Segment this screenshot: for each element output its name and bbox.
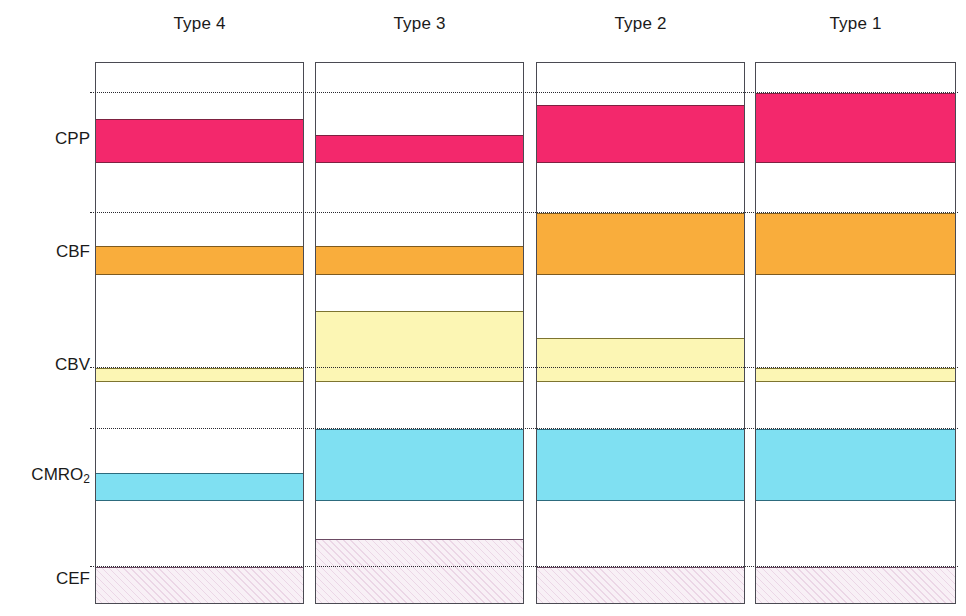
panel-inner-type1 <box>756 63 955 603</box>
column-header-type4: Type 4 <box>95 12 304 36</box>
bar-cbf-type3 <box>316 246 523 275</box>
bar-cmro2-type3 <box>316 429 523 501</box>
panel-inner-type3 <box>316 63 523 603</box>
bar-cpp-type3 <box>316 135 523 163</box>
panel-type3 <box>315 62 524 604</box>
bar-cbv-type1 <box>756 368 955 382</box>
bar-cpp-type1 <box>756 93 955 163</box>
row-label-cbv: CBV <box>6 356 90 373</box>
row-label-cbf: CBF <box>6 243 90 260</box>
bar-cpp-type2 <box>537 105 744 163</box>
bar-cef-type2 <box>537 567 744 603</box>
row-label-column: CPP CBF CBV CMRO2 CEF <box>0 0 90 616</box>
bar-cbf-type2 <box>537 213 744 275</box>
bar-cmro2-type2 <box>537 429 744 501</box>
row-label-cmro2-subscript: 2 <box>83 472 90 486</box>
bar-cbf-type1 <box>756 213 955 275</box>
bar-cmro2-type1 <box>756 429 955 501</box>
panel-type4 <box>95 62 304 604</box>
panel-inner-type2 <box>537 63 744 603</box>
bar-cef-type3 <box>316 539 523 603</box>
bar-cef-type1 <box>756 567 955 603</box>
bar-cpp-type4 <box>96 119 303 163</box>
bar-cef-type4 <box>96 567 303 603</box>
row-label-cbv-text: CBV <box>55 355 90 374</box>
row-label-cbf-text: CBF <box>56 242 90 261</box>
row-label-cef: CEF <box>6 570 90 587</box>
row-label-cef-text: CEF <box>56 569 90 588</box>
bar-cbv-type3 <box>316 311 523 382</box>
row-label-cpp-text: CPP <box>55 129 90 148</box>
figure-root: Type 4 Type 3 Type 2 Type 1 CPP CBF CBV … <box>0 0 966 616</box>
column-header-type3: Type 3 <box>315 12 524 36</box>
bar-cmro2-type4 <box>96 473 303 501</box>
column-header-type2: Type 2 <box>536 12 745 36</box>
row-label-cmro2-text: CMRO <box>31 465 83 484</box>
row-label-cmro2: CMRO2 <box>6 466 90 483</box>
bar-cbv-type4 <box>96 368 303 382</box>
bar-cbv-type2 <box>537 338 744 382</box>
panel-inner-type4 <box>96 63 303 603</box>
panel-type2 <box>536 62 745 604</box>
column-header-type1: Type 1 <box>755 12 956 36</box>
panel-type1 <box>755 62 956 604</box>
row-label-cpp: CPP <box>6 130 90 147</box>
bar-cbf-type4 <box>96 246 303 275</box>
